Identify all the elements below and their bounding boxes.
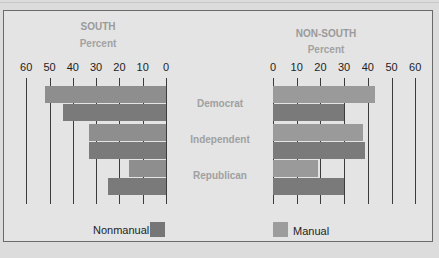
tick-label: 30 [334, 61, 354, 73]
south-subtitle: Percent [58, 38, 138, 49]
tick-label: 30 [86, 61, 106, 73]
bar-manual-republican [273, 160, 318, 177]
legend-manual-label: Manual [293, 225, 329, 237]
nonsouth-subtitle: Percent [286, 44, 366, 55]
tick-label: 20 [109, 61, 129, 73]
bar-manual-independent [273, 124, 363, 141]
legend-nonmanual-swatch [150, 222, 165, 237]
bar-nonmanual-republican [273, 178, 344, 195]
gridline [415, 78, 416, 204]
bar-nonmanual-democrat [63, 104, 166, 121]
tick-label: 50 [382, 61, 402, 73]
tick-label: 10 [287, 61, 307, 73]
gridline [26, 78, 27, 204]
bar-nonmanual-democrat [273, 104, 344, 121]
gridline [166, 78, 167, 204]
nonsouth-title: NON-SOUTH [286, 28, 366, 39]
bar-nonmanual-independent [273, 142, 365, 159]
tick-label: 0 [263, 61, 283, 73]
category-democrat: Democrat [170, 98, 270, 109]
bar-nonmanual-republican [108, 178, 166, 195]
tick-label: 40 [63, 61, 83, 73]
category-independent: Independent [170, 134, 270, 145]
south-title: SOUTH [58, 21, 138, 32]
bar-manual-independent [89, 124, 166, 141]
bar-nonmanual-independent [89, 142, 166, 159]
bar-manual-republican [129, 160, 166, 177]
tick-label: 20 [310, 61, 330, 73]
gridline [392, 78, 393, 204]
bar-manual-democrat [273, 86, 375, 103]
tick-label: 10 [133, 61, 153, 73]
top-rule [0, 2, 439, 3]
tick-label: 40 [358, 61, 378, 73]
legend-manual-swatch [273, 222, 288, 237]
tick-label: 60 [405, 61, 425, 73]
tick-label: 0 [156, 61, 176, 73]
tick-label: 50 [40, 61, 60, 73]
category-republican: Republican [170, 170, 270, 181]
tick-label: 60 [16, 61, 36, 73]
legend-nonmanual-label: Nonmanual [93, 224, 149, 236]
bar-manual-democrat [45, 86, 166, 103]
